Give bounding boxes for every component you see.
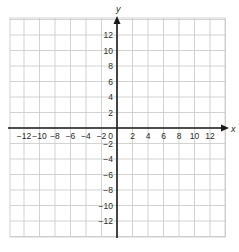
x-tick-label: −12 — [17, 131, 32, 141]
y-tick-label: 12 — [104, 30, 114, 40]
x-tick-label: −8 — [50, 131, 60, 141]
axes: x y — [8, 4, 236, 238]
x-tick-label: 2 — [130, 131, 135, 141]
coordinate-grid-diagram: x y 0 −12−10−8−6−4−22468101212108642−2−4… — [0, 0, 239, 252]
y-axis-label: y — [115, 4, 121, 14]
y-tick-label: 4 — [108, 92, 113, 102]
x-tick-label: 6 — [161, 131, 166, 141]
y-tick-label: 6 — [108, 77, 113, 87]
y-tick-label: −10 — [99, 201, 114, 211]
y-tick-label: −12 — [99, 216, 114, 226]
y-tick-label: −4 — [103, 154, 113, 164]
x-tick-label: −6 — [66, 131, 76, 141]
x-tick-label: 8 — [177, 131, 182, 141]
coordinate-plane: x y 0 −12−10−8−6−4−22468101212108642−2−4… — [0, 0, 239, 252]
y-tick-label: 2 — [108, 108, 113, 118]
y-axis-arrow-icon — [114, 16, 121, 24]
x-tick-label: −10 — [32, 131, 47, 141]
y-tick-label: −8 — [103, 185, 113, 195]
y-tick-label: −2 — [103, 139, 113, 149]
x-tick-label: 4 — [146, 131, 151, 141]
y-tick-label: 10 — [104, 46, 114, 56]
x-tick-label: 12 — [205, 131, 215, 141]
y-tick-label: 8 — [108, 61, 113, 71]
x-tick-label: 10 — [190, 131, 200, 141]
y-tick-label: −6 — [103, 170, 113, 180]
x-tick-label: −4 — [81, 131, 91, 141]
x-axis-label: x — [230, 124, 236, 134]
